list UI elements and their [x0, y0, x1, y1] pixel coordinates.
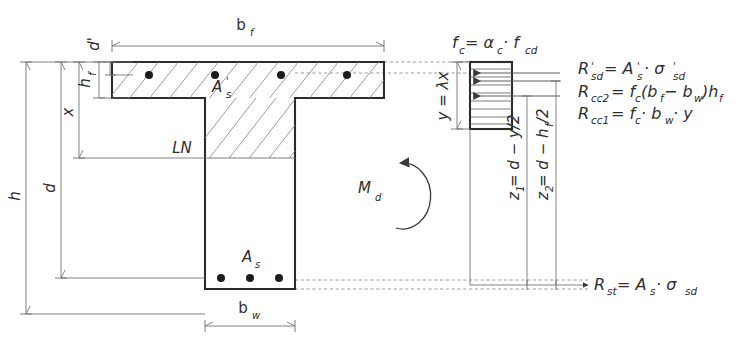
- svg-text:· f: · f: [503, 33, 521, 52]
- svg-text:/2: /2: [534, 108, 552, 125]
- figure-canvas: b f b w h d x: [0, 0, 753, 345]
- svg-text:A: A: [241, 248, 252, 266]
- label-bw-sub: w: [252, 310, 261, 321]
- svg-text:R: R: [578, 104, 589, 123]
- svg-text:s: s: [255, 259, 260, 270]
- svg-text:· y: · y: [673, 104, 693, 123]
- svg-text:= A: = A: [617, 275, 646, 294]
- label-bf: b: [236, 16, 246, 34]
- svg-text:· σ: · σ: [644, 59, 665, 78]
- svg-text:· b: · b: [641, 104, 661, 123]
- svg-text:cd: cd: [525, 44, 538, 56]
- svg-text:= f: = f: [611, 104, 637, 123]
- label-y-lambda-x: y = λx: [434, 72, 452, 122]
- svg-text:sd: sd: [685, 285, 697, 297]
- label-bw: b: [238, 299, 248, 317]
- label-dprime: d': [85, 37, 103, 51]
- svg-text:': ': [226, 76, 229, 87]
- svg-text:s: s: [226, 89, 231, 100]
- svg-text:A: A: [211, 78, 222, 96]
- label-hf: h: [76, 78, 94, 88]
- rebar-dot: [277, 71, 285, 79]
- tbeam-stress-block-diagram: b f b w h d x: [0, 0, 753, 345]
- svg-text:R: R: [594, 275, 605, 294]
- rebar-dot: [246, 274, 254, 282]
- svg-text:= A: = A: [604, 59, 633, 78]
- svg-text:· σ: · σ: [656, 275, 677, 294]
- svg-text:sd: sd: [673, 70, 685, 82]
- label-d: d: [41, 183, 59, 193]
- svg-text:R: R: [578, 82, 589, 101]
- rebar-dot: [275, 274, 283, 282]
- rebar-dot: [145, 71, 153, 79]
- label-h: h: [6, 191, 24, 201]
- label-x: x: [59, 107, 77, 117]
- svg-text:= α: = α: [465, 33, 494, 52]
- svg-text:st: st: [607, 285, 617, 297]
- svg-text:s: s: [637, 70, 643, 82]
- svg-text:sd: sd: [591, 70, 603, 82]
- svg-text:M: M: [358, 179, 371, 197]
- svg-text:= f: = f: [611, 82, 637, 101]
- svg-text:cc1: cc1: [591, 114, 609, 126]
- label-z2: z 2 = d − h f /2: [534, 108, 555, 201]
- svg-text:− b: − b: [664, 82, 693, 101]
- svg-text:= d − y/2: = d − y/2: [505, 115, 523, 187]
- rebar-dot: [343, 71, 351, 79]
- svg-text:R: R: [578, 59, 589, 78]
- svg-text:)h: )h: [701, 82, 718, 101]
- label-neutral-axis: LN: [172, 139, 192, 157]
- svg-text:(b: (b: [641, 82, 657, 101]
- rebar-dot: [217, 274, 225, 282]
- svg-text:d: d: [375, 192, 382, 203]
- svg-text:= d − h: = d − h: [534, 129, 552, 187]
- svg-text:cc2: cc2: [591, 92, 610, 104]
